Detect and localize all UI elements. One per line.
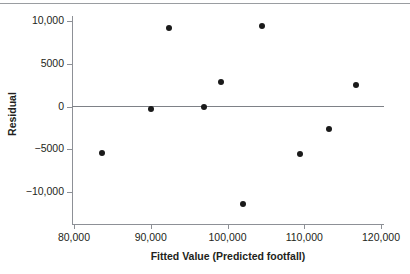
x-tick-mark xyxy=(151,224,152,229)
scatter-point xyxy=(353,82,359,88)
x-tick-mark xyxy=(228,224,229,229)
x-tick-mark xyxy=(304,224,305,229)
x-tick-label: 110,000 xyxy=(286,232,323,243)
scatter-point xyxy=(259,23,265,29)
y-tick-mark xyxy=(67,192,72,193)
scatter-point xyxy=(201,104,207,110)
scatter-point xyxy=(99,150,105,156)
top-divider-rule xyxy=(0,3,410,4)
scatter-point xyxy=(218,79,224,85)
y-tick-label: −10,000 xyxy=(26,186,64,197)
y-tick-mark xyxy=(67,149,72,150)
y-tick-mark xyxy=(67,107,72,108)
y-axis-title: Residual xyxy=(6,74,18,154)
x-axis-title: Fitted Value (Predicted footfall) xyxy=(72,250,384,262)
y-axis-spine xyxy=(72,16,73,224)
x-tick-mark xyxy=(381,224,382,229)
y-tick-label: 5000 xyxy=(41,58,64,69)
y-tick-mark xyxy=(67,64,72,65)
y-tick-label: 10,000 xyxy=(32,15,64,26)
residual-scatter-plot: 10,00050000−5000−10,000 80,00090,000100,… xyxy=(0,0,410,274)
scatter-point xyxy=(148,106,154,112)
scatter-point xyxy=(326,126,332,132)
scatter-point xyxy=(297,151,303,157)
scatter-point xyxy=(240,201,246,207)
scatter-point xyxy=(166,25,172,31)
x-tick-mark xyxy=(74,224,75,229)
y-tick-label: 0 xyxy=(58,101,64,112)
x-tick-label: 120,000 xyxy=(362,232,400,243)
zero-reference-line xyxy=(72,106,384,107)
y-tick-mark xyxy=(67,21,72,22)
y-tick-label: −5000 xyxy=(35,143,65,154)
x-tick-label: 100,000 xyxy=(209,232,247,243)
x-tick-label: 80,000 xyxy=(58,232,90,243)
x-tick-label: 90,000 xyxy=(135,232,167,243)
